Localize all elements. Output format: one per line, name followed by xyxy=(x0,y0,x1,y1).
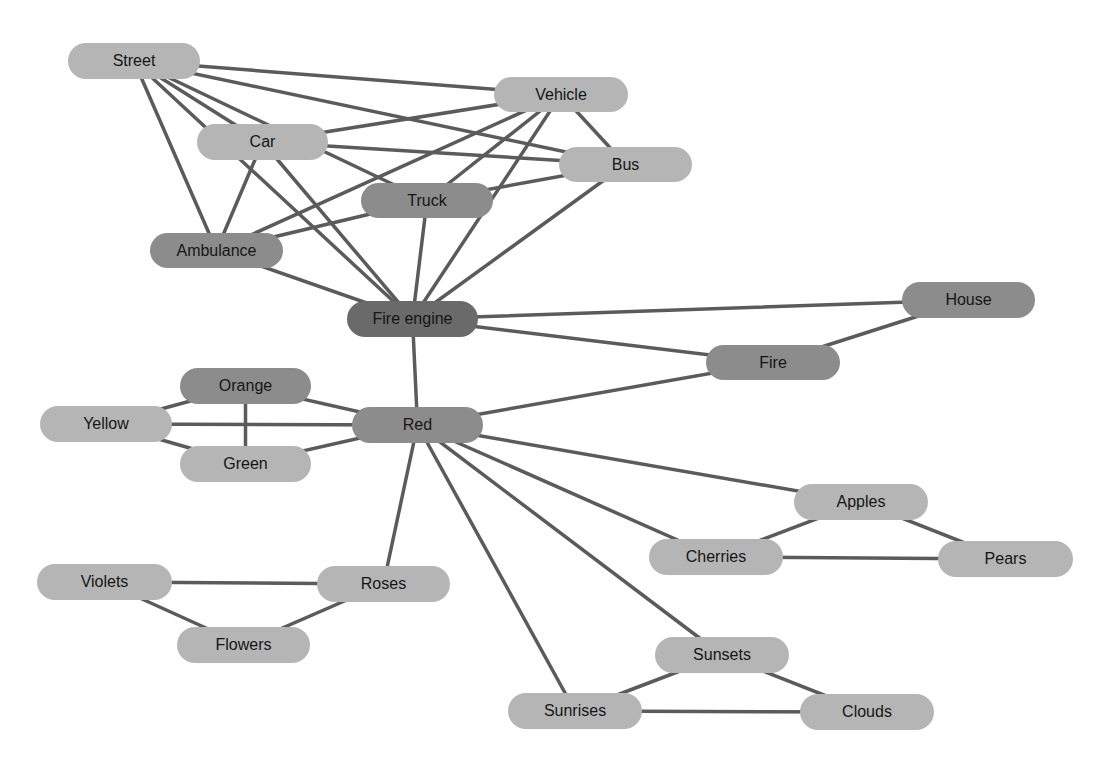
node-label: Clouds xyxy=(842,703,892,721)
node-ambulance: Ambulance xyxy=(150,233,283,268)
node-label: Sunrises xyxy=(544,702,606,720)
node-sunrises: Sunrises xyxy=(508,693,642,729)
node-car: Car xyxy=(197,124,328,160)
node-violets: Violets xyxy=(37,564,172,600)
node-sunsets: Sunsets xyxy=(655,637,789,673)
node-orange: Orange xyxy=(180,368,311,404)
edge-red-apples xyxy=(418,425,862,502)
node-label: Car xyxy=(250,133,276,151)
node-green: Green xyxy=(180,446,311,482)
node-clouds: Clouds xyxy=(800,694,934,730)
edge-red-roses xyxy=(384,425,418,584)
node-label: Green xyxy=(223,455,267,473)
edge-fire_engine-house xyxy=(413,300,969,319)
node-house: House xyxy=(902,282,1035,318)
node-label: Apples xyxy=(837,493,886,511)
node-vehicle: Vehicle xyxy=(494,77,628,112)
node-label: Bus xyxy=(612,156,640,174)
node-label: Red xyxy=(403,416,432,434)
node-fire-engine: Fire engine xyxy=(347,301,478,337)
node-label: Violets xyxy=(81,573,129,591)
node-apples: Apples xyxy=(794,484,928,520)
node-yellow: Yellow xyxy=(40,406,172,442)
node-street: Street xyxy=(68,43,200,79)
node-truck: Truck xyxy=(361,183,493,218)
edge-layer xyxy=(0,0,1108,772)
node-label: Truck xyxy=(407,192,446,210)
node-flowers: Flowers xyxy=(177,627,310,663)
node-label: Fire engine xyxy=(372,310,452,328)
node-label: Sunsets xyxy=(693,646,751,664)
node-label: Roses xyxy=(361,575,406,593)
node-label: Street xyxy=(113,52,156,70)
node-label: Cherries xyxy=(686,548,746,566)
node-pears: Pears xyxy=(938,541,1073,577)
node-red: Red xyxy=(352,407,483,443)
node-label: Pears xyxy=(985,550,1027,568)
node-cherries: Cherries xyxy=(649,539,783,575)
node-fire: Fire xyxy=(706,345,840,380)
node-roses: Roses xyxy=(317,566,450,602)
node-label: Orange xyxy=(219,377,272,395)
node-label: House xyxy=(945,291,991,309)
node-label: Yellow xyxy=(83,415,129,433)
node-label: Vehicle xyxy=(535,86,587,104)
node-label: Flowers xyxy=(215,636,271,654)
node-bus: Bus xyxy=(559,147,692,182)
node-label: Fire xyxy=(759,354,787,372)
node-label: Ambulance xyxy=(176,242,256,260)
